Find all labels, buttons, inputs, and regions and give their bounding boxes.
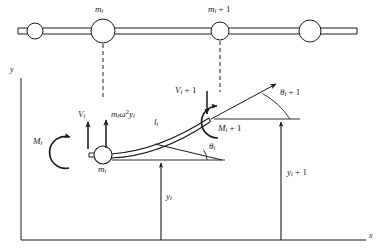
shaft-mass-i-plus-1-label: mi + 1	[208, 5, 230, 15]
x-axis-label: x	[369, 232, 373, 240]
beam-end-cap	[209, 118, 211, 122]
dimension-label-y-i-plus-1: yi + 1	[287, 168, 307, 178]
tangent-ray-theta-i-plus-1	[211, 84, 276, 119]
shaft-assembly	[18, 28, 357, 34]
shaft-mass-right	[299, 20, 321, 42]
beam-length-label-l-i: li	[154, 118, 158, 128]
beam-node-i-label: mi	[98, 165, 106, 175]
diagram-canvas	[0, 0, 380, 252]
moment-label-M-i-plus-1: Mi + 1	[218, 124, 241, 134]
dimension-label-y-i: yi	[166, 192, 172, 202]
angle-arc-theta-i	[204, 150, 208, 160]
shaft-mass-i	[91, 19, 115, 43]
shaft-mass-left	[27, 23, 43, 39]
force-label-centrifugal-i: miω2yi	[111, 109, 135, 120]
beam-node-i-hub	[94, 146, 112, 164]
moment-arc-M-i	[50, 136, 70, 168]
shaft-mass-i-label: mi	[95, 5, 103, 15]
angle-label-theta-i: θi	[209, 142, 215, 152]
shaft-mass-i-plus-1	[211, 22, 229, 40]
force-label-V-i: Vi	[78, 110, 85, 120]
moment-label-M-i: Mi	[33, 137, 42, 147]
y-axis-label: y	[10, 66, 14, 74]
beam-free-body-diagram: mi mi + 1 y x Vi miω2yi Vi + 1 Mi Mi + 1…	[0, 0, 380, 252]
angle-label-theta-i-plus-1: θi + 1	[280, 88, 300, 98]
force-label-V-i-plus-1: Vi + 1	[175, 86, 196, 96]
